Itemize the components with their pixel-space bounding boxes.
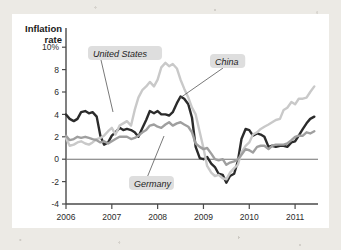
- y-tick-label: -4: [51, 199, 59, 209]
- x-tick-label: 2011: [286, 212, 305, 222]
- series-line-china: [66, 63, 314, 179]
- annotation-leader-line: [101, 60, 113, 112]
- annotation-label: China: [215, 57, 239, 67]
- x-tick-label: 2010: [240, 212, 259, 222]
- annotation-leader-line: [180, 68, 223, 98]
- x-tick-label: 2008: [148, 212, 167, 222]
- annotation-china: China: [210, 54, 245, 68]
- series-line-united-states: [66, 96, 314, 182]
- y-tick-label: 6: [54, 87, 59, 97]
- y-axis-title-line2: rate: [45, 34, 62, 45]
- annotation-label: Germany: [134, 179, 172, 189]
- inflation-rate-line-chart: 10%86420-2-4200620072008200920102011Infl…: [12, 14, 329, 228]
- x-axis-title: Year: [298, 226, 318, 228]
- chart-canvas: 10%86420-2-4200620072008200920102011Infl…: [12, 14, 329, 228]
- x-tick-label: 2007: [102, 212, 121, 222]
- annotation-united-states: United States: [88, 46, 162, 60]
- chart-figure: 10%86420-2-4200620072008200920102011Infl…: [12, 14, 329, 228]
- x-tick-label: 2009: [194, 212, 213, 222]
- annotation-germany: Germany: [129, 176, 174, 190]
- page-background: 10%86420-2-4200620072008200920102011Infl…: [0, 0, 341, 250]
- y-tick-label: -2: [51, 177, 59, 187]
- y-axis-title-line1: Inflation: [25, 23, 62, 34]
- x-tick-label: 2006: [57, 212, 76, 222]
- y-tick-label: 0: [54, 154, 59, 164]
- y-tick-label: 2: [54, 132, 59, 142]
- y-tick-label: 8: [54, 65, 59, 75]
- y-tick-label: 4: [54, 110, 59, 120]
- annotation-label: United States: [93, 49, 148, 59]
